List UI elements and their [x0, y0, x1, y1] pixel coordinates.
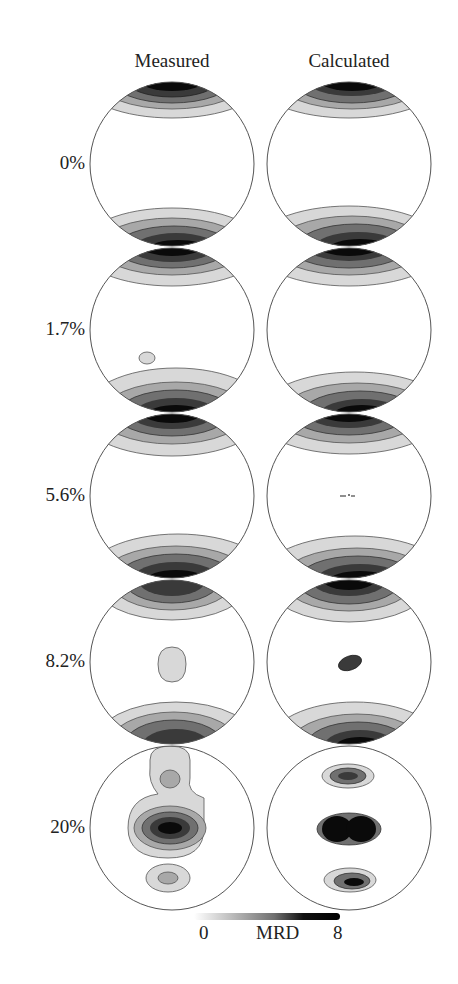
pole-figure-grid [0, 0, 458, 984]
pole-figure-measured-20pct [128, 746, 206, 892]
colorbar-min-label: 0 [199, 922, 209, 944]
colorbar-title: MRD [256, 922, 299, 944]
pole-figure-calculated-20pct [317, 764, 381, 892]
pole-figure-outlines [90, 82, 431, 910]
pole-figure-calculated-8-2pct [267, 542, 441, 786]
colorbar-max-label: 8 [333, 922, 343, 944]
colorbar [194, 913, 340, 920]
